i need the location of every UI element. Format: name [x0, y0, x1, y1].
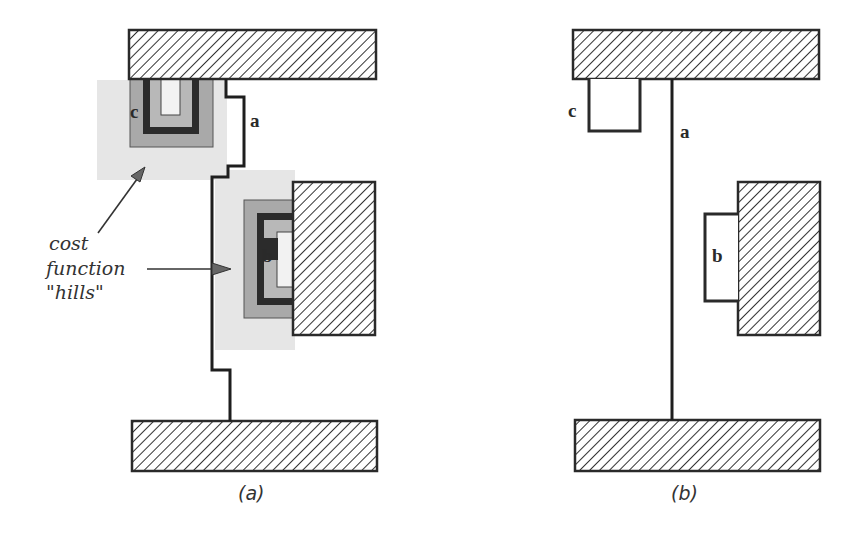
- cost-hill-b: b: [215, 170, 295, 350]
- annotation-line-3: "hills": [46, 281, 104, 303]
- top-block: [573, 30, 819, 79]
- caption-a: (a): [238, 482, 264, 504]
- bottom-block: [575, 420, 820, 471]
- pin-label-c: c: [568, 100, 576, 121]
- caption-b: (b): [671, 482, 698, 504]
- panel-b: c b a (b): [568, 30, 820, 504]
- annotation-line-1: cost: [49, 232, 89, 254]
- panel-a: c b a cost function "hills" (a): [44, 30, 377, 504]
- right-block: [738, 182, 820, 335]
- net-label-a: a: [680, 121, 690, 142]
- right-block: [293, 182, 375, 335]
- top-block: [129, 30, 376, 79]
- net-label-a: a: [250, 110, 260, 131]
- bottom-block: [132, 421, 377, 471]
- pin-c: [589, 79, 640, 131]
- pin-label-b: b: [262, 245, 273, 266]
- cost-hill-c: c: [97, 79, 227, 180]
- pin-label-b: b: [712, 245, 723, 266]
- routing-diagram: c b a cost function "hills" (a): [0, 0, 862, 533]
- annotation-line-2: function: [44, 257, 126, 279]
- pin-label-c: c: [130, 101, 138, 122]
